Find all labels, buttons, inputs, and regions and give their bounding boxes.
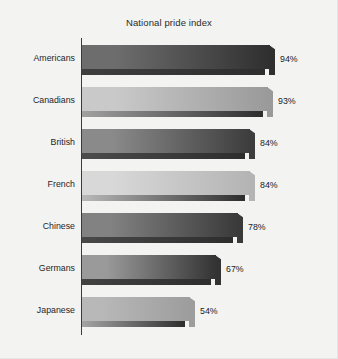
value-label-british: 84%	[260, 138, 278, 148]
bar-row: French84%	[0, 166, 338, 208]
bar-face	[82, 45, 270, 69]
value-label-americans: 94%	[280, 54, 298, 64]
chart-title: National pride index	[0, 17, 338, 28]
plot-area: Americans94%Canadians93%British84%French…	[0, 38, 338, 338]
category-label-americans: Americans	[0, 53, 75, 63]
bar-row: Chinese78%	[0, 208, 338, 250]
bar-face	[82, 171, 250, 195]
bar-end-bevel	[249, 129, 255, 159]
bar-row: Canadians93%	[0, 82, 338, 124]
value-label-germans: 67%	[226, 264, 244, 274]
bar-shadow	[82, 195, 245, 201]
bar-shadow	[82, 321, 185, 327]
bar-germans	[82, 255, 216, 286]
bar-end-bevel	[215, 255, 221, 285]
bar-shadow	[82, 279, 211, 285]
bar-face	[82, 297, 190, 321]
category-label-french: French	[0, 179, 75, 189]
bar-end-bevel	[189, 297, 195, 327]
category-label-canadians: Canadians	[0, 95, 75, 105]
bar-end-bevel	[269, 45, 275, 75]
bar-americans	[82, 45, 270, 76]
bar-japanese	[82, 297, 190, 328]
category-label-chinese: Chinese	[0, 221, 75, 231]
bar-face	[82, 213, 238, 237]
bar-british	[82, 129, 250, 160]
bar-row: Japanese54%	[0, 292, 338, 334]
category-label-germans: Germans	[0, 263, 75, 273]
value-label-canadians: 93%	[278, 96, 296, 106]
bar-shadow	[82, 153, 245, 159]
bar-row: Americans94%	[0, 40, 338, 82]
category-label-british: British	[0, 137, 75, 147]
value-label-chinese: 78%	[248, 222, 266, 232]
bar-end-bevel	[267, 87, 273, 117]
value-label-japanese: 54%	[200, 306, 218, 316]
category-label-japanese: Japanese	[0, 305, 75, 315]
bar-row: Germans67%	[0, 250, 338, 292]
bar-french	[82, 171, 250, 202]
bar-face	[82, 255, 216, 279]
bar-shadow	[82, 111, 263, 117]
bar-row: British84%	[0, 124, 338, 166]
bar-end-bevel	[237, 213, 243, 243]
bar-face	[82, 129, 250, 153]
bar-face	[82, 87, 268, 111]
bar-shadow	[82, 69, 265, 75]
bar-end-bevel	[249, 171, 255, 201]
chart-container: National pride index Americans94%Canadia…	[0, 0, 338, 359]
value-label-french: 84%	[260, 180, 278, 190]
bar-canadians	[82, 87, 268, 118]
bar-shadow	[82, 237, 233, 243]
bar-chinese	[82, 213, 238, 244]
